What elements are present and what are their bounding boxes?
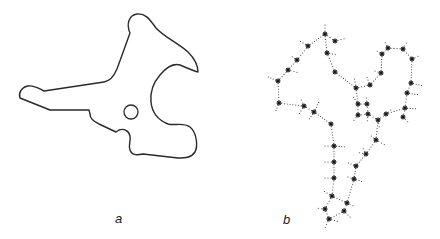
- skeleton-node-star-icon: [275, 78, 280, 83]
- skeleton-dot: [341, 146, 342, 147]
- skeleton-dot: [329, 37, 330, 38]
- skeleton-dot: [332, 66, 333, 67]
- skeleton-dot: [327, 161, 328, 162]
- skeleton-dot: [324, 24, 325, 25]
- skeleton-dot: [292, 104, 293, 105]
- skeleton-dot: [345, 79, 346, 80]
- skeleton-dot: [293, 63, 294, 64]
- skeleton-dot: [324, 27, 325, 28]
- skeleton-dot: [352, 205, 353, 206]
- skeleton-dot: [278, 86, 279, 87]
- skeleton-dot: [333, 140, 334, 141]
- skeleton-dot: [300, 110, 301, 111]
- skeleton-dot: [378, 141, 379, 142]
- skeleton-dot: [411, 72, 412, 73]
- skeleton-dot: [369, 149, 370, 150]
- skeleton-node-star-icon: [305, 43, 310, 48]
- skeleton-dot: [363, 148, 364, 149]
- skeleton-dot: [377, 76, 378, 77]
- skeleton-dot: [390, 109, 391, 110]
- skeleton-dot: [340, 39, 341, 40]
- skeleton-dot: [406, 98, 407, 99]
- skeleton-dot: [414, 57, 415, 58]
- skeleton-dot: [324, 145, 325, 146]
- skeleton-dot: [302, 52, 303, 53]
- panel-a-shape-outline: [19, 14, 198, 158]
- skeleton-dot: [331, 63, 332, 64]
- skeleton-dot: [275, 110, 276, 111]
- skeleton-dot: [355, 117, 356, 118]
- skeleton-dot: [326, 44, 327, 45]
- skeleton-dot: [372, 144, 373, 145]
- skeleton-dot: [407, 90, 408, 91]
- skeleton-dot: [330, 198, 331, 199]
- skeleton-dot: [402, 108, 403, 109]
- skeleton-node-star-icon: [353, 163, 358, 168]
- skeleton-dot: [300, 55, 301, 56]
- skeleton-dot: [374, 70, 375, 71]
- skeleton-dot: [381, 67, 382, 68]
- skeleton-dot: [359, 161, 360, 162]
- skeleton-dot: [326, 47, 327, 48]
- skeleton-dot: [409, 85, 410, 86]
- skeleton-dot: [283, 74, 284, 75]
- skeleton-dot: [336, 198, 337, 199]
- skeleton-dot: [377, 125, 378, 126]
- skeleton-dot: [273, 78, 274, 79]
- skeleton-dot: [331, 129, 332, 130]
- skeleton-dot: [393, 48, 394, 49]
- skeleton-dot: [415, 108, 416, 109]
- skeleton-dot: [278, 97, 279, 98]
- skeleton-dot: [329, 58, 330, 59]
- skeleton-dot: [354, 81, 355, 82]
- skeleton-dot: [381, 64, 382, 65]
- skeleton-dot: [339, 199, 340, 200]
- skeleton-dot: [371, 135, 372, 136]
- skeleton-dot: [333, 69, 334, 70]
- skeleton-dot: [337, 221, 338, 222]
- skeleton-dot: [411, 64, 412, 65]
- skeleton-dot: [385, 42, 386, 43]
- skeleton-node-star-icon: [332, 69, 337, 74]
- skeleton-node-star-icon: [311, 109, 316, 114]
- skeleton-dot: [318, 114, 319, 115]
- skeleton-dot: [341, 76, 342, 77]
- skeleton-spurs: [268, 24, 422, 227]
- skeleton-dot: [278, 91, 279, 92]
- skeleton-dot: [381, 59, 382, 60]
- skeleton-node-star-icon: [400, 114, 405, 119]
- skeleton-node-star-icon: [363, 151, 368, 156]
- skeleton-dot: [277, 105, 278, 106]
- skeleton-node-star-icon: [409, 56, 414, 61]
- skeleton-dot: [281, 76, 282, 77]
- skeleton-dot: [278, 89, 279, 90]
- skeleton-dot: [386, 45, 387, 46]
- skeleton-dot: [412, 93, 413, 94]
- skeleton-dot: [405, 119, 406, 120]
- skeleton-dot: [366, 97, 367, 98]
- skeleton-dot: [367, 110, 368, 111]
- skeleton-dot: [354, 173, 355, 174]
- skeleton-dot: [416, 84, 417, 85]
- skeleton-dot: [327, 35, 328, 36]
- skeleton-dot: [388, 113, 389, 114]
- skeleton-node-star-icon: [322, 206, 327, 211]
- skeleton-dot: [368, 82, 369, 83]
- skeleton-dot: [359, 152, 360, 153]
- skeleton-node-star-icon: [378, 70, 383, 75]
- skeleton-dot: [284, 103, 285, 104]
- panel-b-skeleton-graph: [268, 24, 422, 227]
- skeleton-dot: [353, 120, 354, 121]
- skeleton-dot: [373, 80, 374, 81]
- skeleton-dot: [296, 72, 297, 73]
- skeleton-dot: [412, 108, 413, 109]
- skeleton-node-star-icon: [294, 57, 299, 62]
- skeleton-dot: [370, 146, 371, 147]
- skeleton-dot: [399, 109, 400, 110]
- skeleton-dot: [410, 108, 411, 109]
- skeleton-dot: [331, 217, 332, 218]
- skeleton-dot: [322, 117, 323, 118]
- skeleton-dot: [378, 123, 379, 124]
- skeleton-dot: [336, 214, 337, 215]
- skeleton-dot: [328, 55, 329, 56]
